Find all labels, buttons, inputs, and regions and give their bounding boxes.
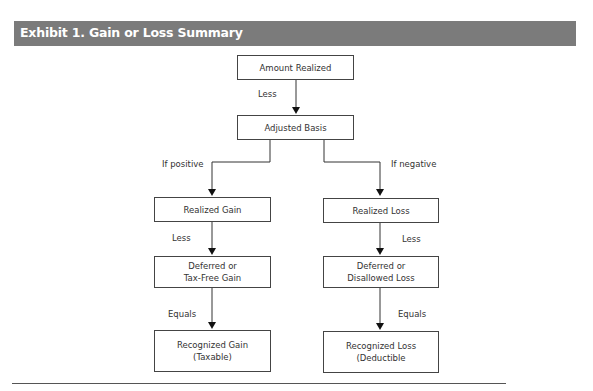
edge-label-if-negative: If negative: [391, 159, 436, 169]
node-realized-gain: Realized Gain: [154, 197, 271, 222]
node-recognized-gain: Recognized Gain (Taxable): [154, 330, 271, 372]
edge-label-equals-loss: Equals: [398, 309, 426, 319]
node-deferred-gain: Deferred or Tax-Free Gain: [154, 256, 271, 288]
edge-label-equals-gain: Equals: [168, 309, 196, 319]
node-recognized-loss: Recognized Loss (Deductible: [323, 331, 439, 373]
node-adjusted-basis: Adjusted Basis: [237, 115, 354, 140]
edge-label-less-loss: Less: [402, 234, 421, 244]
bottom-rule: [12, 383, 506, 384]
node-amount-realized: Amount Realized: [237, 55, 354, 80]
edge-label-less-gain: Less: [172, 233, 191, 243]
node-realized-loss: Realized Loss: [323, 198, 439, 223]
edge-label-if-positive: If positive: [162, 159, 204, 169]
edge-label-less-top: Less: [258, 89, 277, 99]
node-deferred-loss: Deferred or Disallowed Loss: [323, 256, 439, 288]
